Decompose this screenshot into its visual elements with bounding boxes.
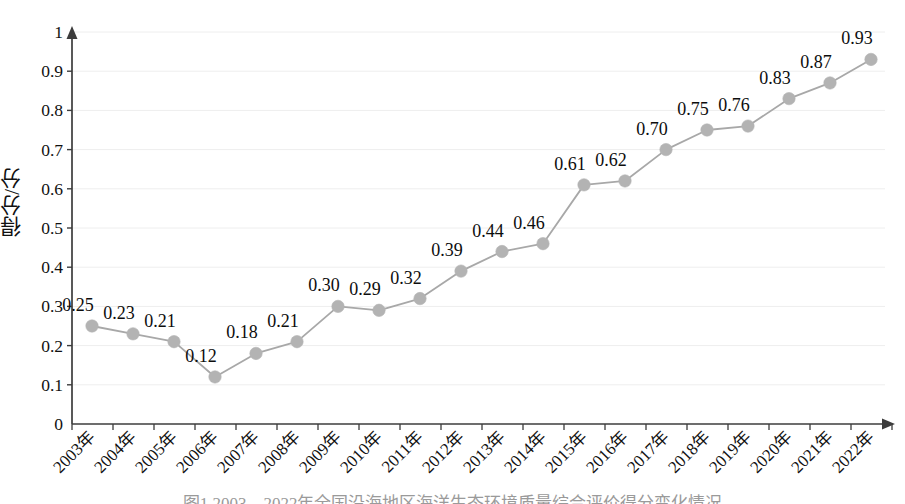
data-point-marker	[824, 77, 836, 89]
y-tick-label: 0	[54, 414, 63, 434]
x-tick-label: 2008年	[254, 427, 303, 476]
y-axis-ticks-group: 00.10.20.30.40.50.60.70.80.91	[41, 22, 72, 434]
x-tick-label: 2006年	[172, 427, 221, 476]
data-point-marker	[455, 265, 467, 277]
data-point-marker	[373, 304, 385, 316]
y-tick-label: 0.1	[41, 375, 63, 395]
data-point-label: 0.18	[226, 322, 258, 342]
line-chart-plot: 00.10.20.30.40.50.60.70.80.91 2003年2004年…	[0, 0, 905, 504]
data-labels-group: 0.250.230.210.120.180.210.300.290.320.39…	[62, 28, 873, 366]
x-tick-label: 2022年	[828, 427, 877, 476]
y-tick-label: 0.9	[41, 61, 63, 81]
x-tick-label: 2016年	[582, 427, 631, 476]
data-point-marker	[783, 92, 795, 104]
data-markers-group	[86, 53, 877, 383]
chart-container: 得分/分 00.10.20.30.40.50.60.70.80.91 2003年…	[0, 0, 905, 504]
data-point-label: 0.75	[677, 99, 709, 119]
data-point-label: 0.30	[308, 275, 340, 295]
data-point-label: 0.62	[595, 150, 627, 170]
data-point-label: 0.87	[800, 52, 832, 72]
data-point-label: 0.70	[636, 119, 668, 139]
x-tick-label: 2014年	[500, 427, 549, 476]
data-point-marker	[414, 292, 426, 304]
data-point-marker	[332, 300, 344, 312]
data-point-marker	[250, 347, 262, 359]
x-tick-label: 2003年	[49, 427, 98, 476]
data-point-label: 0.25	[62, 295, 94, 315]
data-point-marker	[496, 245, 508, 257]
x-tick-label: 2021年	[787, 427, 836, 476]
x-tick-label: 2019年	[705, 427, 754, 476]
data-point-marker	[537, 237, 549, 249]
x-axis-ticks-group: 2003年2004年2005年2006年2007年2008年2009年2010年…	[49, 424, 892, 477]
x-tick-label: 2010年	[336, 427, 385, 476]
y-tick-label: 0.8	[41, 100, 63, 120]
data-point-marker	[660, 143, 672, 155]
x-tick-label: 2020年	[746, 427, 795, 476]
x-tick-label: 2009年	[295, 427, 344, 476]
y-tick-label: 0.7	[41, 140, 63, 160]
y-tick-label: 0.5	[41, 218, 63, 238]
y-tick-label: 0.4	[41, 257, 63, 277]
data-point-label: 0.21	[144, 311, 176, 331]
data-point-label: 0.23	[103, 303, 135, 323]
figure-caption: 图1 2003—2022年全国沿海地区海洋生态环境质量综合评价得分变化情况	[0, 489, 905, 504]
data-point-marker	[127, 328, 139, 340]
data-point-label: 0.32	[390, 268, 422, 288]
x-tick-label: 2005年	[131, 427, 180, 476]
x-tick-label: 2012年	[418, 427, 467, 476]
data-point-marker	[291, 335, 303, 347]
x-tick-label: 2017年	[623, 427, 672, 476]
data-point-marker	[619, 175, 631, 187]
data-point-marker	[209, 371, 221, 383]
x-tick-label: 2011年	[378, 427, 427, 476]
data-point-marker	[86, 320, 98, 332]
data-point-marker	[742, 120, 754, 132]
y-tick-label: 0.6	[41, 179, 63, 199]
x-tick-label: 2004年	[90, 427, 139, 476]
x-tick-label: 2013年	[459, 427, 508, 476]
y-tick-label: 0.2	[41, 336, 63, 356]
data-series-group	[92, 59, 871, 377]
data-point-label: 0.12	[185, 346, 217, 366]
x-tick-label: 2018年	[664, 427, 713, 476]
y-tick-label: 1	[54, 22, 63, 42]
data-point-marker	[168, 335, 180, 347]
data-point-marker	[701, 124, 713, 136]
data-point-label: 0.29	[349, 279, 381, 299]
data-point-label: 0.93	[841, 28, 873, 48]
data-point-label: 0.76	[718, 95, 750, 115]
data-point-label: 0.39	[431, 240, 463, 260]
data-point-label: 0.44	[472, 221, 504, 241]
x-tick-label: 2007年	[213, 427, 262, 476]
y-tick-label: 0.3	[41, 296, 63, 316]
data-point-marker	[578, 179, 590, 191]
data-point-label: 0.21	[267, 311, 299, 331]
data-point-marker	[865, 53, 877, 65]
data-point-label: 0.61	[554, 154, 586, 174]
data-point-label: 0.46	[513, 213, 545, 233]
x-tick-label: 2015年	[541, 427, 590, 476]
data-point-label: 0.83	[759, 68, 791, 88]
